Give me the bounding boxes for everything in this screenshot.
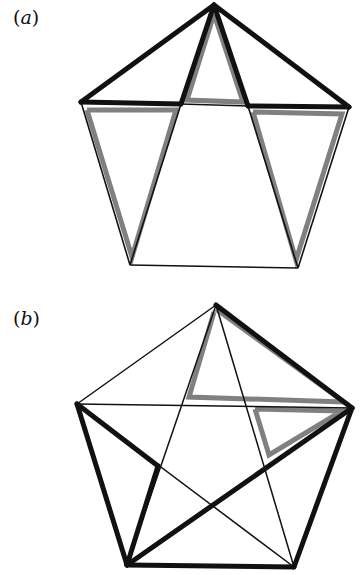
thick-lines-b xyxy=(77,305,352,567)
pentagon-diagram-a xyxy=(0,0,364,285)
panel-a: (a) xyxy=(0,0,364,285)
gray-highlights-a xyxy=(87,14,342,260)
pentagon-diagram-b xyxy=(0,285,364,575)
panel-b: (b) xyxy=(0,285,364,575)
thin-lines-a xyxy=(81,102,349,268)
